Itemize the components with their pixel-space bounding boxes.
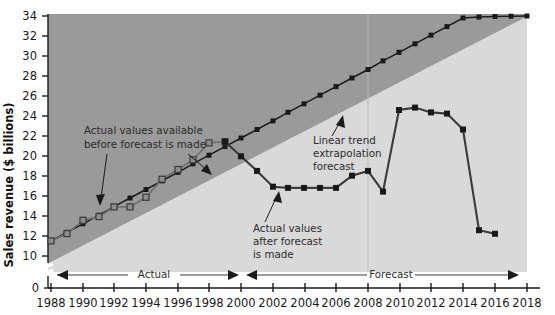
actual-before-marker-1994 bbox=[143, 194, 149, 200]
actual-after-marker-2008 bbox=[365, 168, 371, 174]
annotation-trend-line1: Linear trend bbox=[313, 134, 376, 146]
y-tick-label-0: 0 bbox=[32, 281, 39, 295]
actual-after-marker-2012 bbox=[428, 109, 434, 115]
actual-before-marker-1996 bbox=[175, 167, 181, 173]
y-tick-label-10: 10 bbox=[22, 249, 37, 263]
trend-marker-2003 bbox=[286, 110, 291, 115]
annotation-actual-after-line2: after forecast bbox=[253, 235, 322, 247]
y-tick-label-26: 26 bbox=[22, 89, 37, 103]
actual-before-marker-1993 bbox=[127, 204, 133, 210]
trend-marker-1994 bbox=[144, 187, 149, 192]
x-tick-label-1996: 1996 bbox=[163, 296, 192, 310]
actual-before-marker-1989 bbox=[64, 231, 70, 237]
actual-after-marker-2004 bbox=[301, 185, 307, 191]
trend-marker-2011 bbox=[413, 41, 418, 46]
annotation-actual-after-line3: is made bbox=[253, 248, 294, 260]
trend-marker-2010 bbox=[397, 50, 402, 55]
trend-marker-2014 bbox=[461, 16, 466, 21]
annotation-trend-line3: forecast bbox=[313, 160, 355, 172]
actual-after-marker-2016 bbox=[492, 231, 498, 237]
trend-marker-2018 bbox=[525, 14, 530, 19]
actual-after-marker-2005 bbox=[317, 185, 323, 191]
trend-marker-2008 bbox=[366, 67, 371, 72]
y-tick-label-18: 18 bbox=[22, 169, 37, 183]
x-tick-label-2018: 2018 bbox=[512, 296, 541, 310]
y-tick-label-24: 24 bbox=[22, 109, 37, 123]
y-tick-label-14: 14 bbox=[22, 209, 37, 223]
actual-before-marker-1988 bbox=[48, 238, 54, 244]
x-tick-label-2012: 2012 bbox=[416, 296, 445, 310]
trend-marker-2013 bbox=[445, 24, 450, 29]
actual-before-marker-1990 bbox=[80, 217, 86, 223]
x-tick-label-1992: 1992 bbox=[99, 296, 128, 310]
x-tick-label-2008: 2008 bbox=[353, 296, 382, 310]
actual-after-marker-2013 bbox=[444, 111, 450, 117]
x-tick-label-1994: 1994 bbox=[131, 296, 160, 310]
actual-before-marker-1995 bbox=[159, 176, 165, 182]
actual-after-marker-2010 bbox=[396, 107, 402, 113]
x-tick-label-2004: 2004 bbox=[290, 296, 319, 310]
actual-after-marker-2009 bbox=[380, 189, 386, 195]
trend-marker-1993 bbox=[128, 196, 133, 201]
actual-after-marker-2011 bbox=[412, 105, 418, 111]
x-tick-label-1998: 1998 bbox=[194, 296, 223, 310]
x-tick-label-2002: 2002 bbox=[258, 296, 287, 310]
actual-before-marker-1992 bbox=[111, 204, 117, 210]
band-label-actual: Actual bbox=[138, 268, 170, 280]
trend-marker-2001 bbox=[255, 127, 260, 132]
y-tick-label-22: 22 bbox=[22, 129, 37, 143]
actual-after-marker-2007 bbox=[349, 173, 355, 179]
x-tick-label-2000: 2000 bbox=[226, 296, 255, 310]
actual-after-marker-2014 bbox=[460, 127, 466, 133]
band-label-forecast: Forecast bbox=[369, 268, 413, 280]
y-tick-label-20: 20 bbox=[22, 149, 37, 163]
trend-marker-2006 bbox=[334, 84, 339, 89]
trend-marker-2017 bbox=[509, 14, 514, 19]
x-tick-label-1988: 1988 bbox=[36, 296, 65, 310]
y-tick-label-30: 30 bbox=[22, 49, 37, 63]
x-tick-label-2014: 2014 bbox=[448, 296, 477, 310]
annotation-actual-before-line2: before forecast is made bbox=[84, 138, 206, 150]
y-tick-label-28: 28 bbox=[22, 69, 37, 83]
trend-marker-2009 bbox=[381, 58, 386, 63]
annotation-trend-line2: extrapolation bbox=[313, 147, 382, 159]
annotation-actual-after-line1: Actual values bbox=[253, 222, 322, 234]
actual-before-marker-1991 bbox=[96, 214, 102, 220]
x-tick-label-1990: 1990 bbox=[68, 296, 97, 310]
actual-after-marker-2001 bbox=[254, 168, 260, 174]
actual-after-marker-2003 bbox=[285, 185, 291, 191]
actual-after-marker-2015 bbox=[476, 227, 482, 233]
trend-marker-2000 bbox=[239, 136, 244, 141]
y-axis-title: Sales revenue ($ billions) bbox=[2, 102, 16, 267]
annotation-actual-before-line1: Actual values available bbox=[84, 124, 203, 136]
sales-revenue-forecast-chart: 34 32 30 28 26 24 22 20 18 16 14 12 10 0… bbox=[0, 0, 555, 315]
actual-after-marker-1999 bbox=[222, 139, 228, 145]
trend-marker-2015 bbox=[477, 15, 482, 20]
trend-marker-2007 bbox=[350, 76, 355, 81]
actual-after-marker-2002 bbox=[270, 184, 276, 190]
actual-after-marker-2006 bbox=[333, 185, 339, 191]
trend-marker-2004 bbox=[302, 101, 307, 106]
chart-root: 34 32 30 28 26 24 22 20 18 16 14 12 10 0… bbox=[0, 0, 555, 315]
actual-before-marker-1998 bbox=[206, 140, 212, 146]
x-tick-label-2010: 2010 bbox=[385, 296, 414, 310]
y-tick-label-16: 16 bbox=[22, 189, 37, 203]
actual-after-marker-2000 bbox=[238, 153, 244, 159]
y-tick-label-32: 32 bbox=[22, 29, 37, 43]
trend-marker-2005 bbox=[318, 93, 323, 98]
trend-marker-2016 bbox=[493, 14, 498, 19]
trend-marker-2002 bbox=[271, 118, 276, 123]
x-tick-label-2016: 2016 bbox=[480, 296, 509, 310]
y-tick-label-12: 12 bbox=[22, 229, 37, 243]
x-tick-label-2006: 2006 bbox=[321, 296, 350, 310]
trend-marker-2012 bbox=[429, 33, 434, 38]
y-tick-label-34: 34 bbox=[22, 9, 37, 23]
trend-marker-1998 bbox=[207, 153, 212, 158]
